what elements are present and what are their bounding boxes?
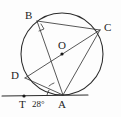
point-label-C: C <box>104 22 111 33</box>
center-dot-O <box>60 52 63 55</box>
angle-mark-at-A-inner <box>49 83 54 86</box>
point-label-D: D <box>11 70 19 81</box>
segment-BC <box>37 21 100 30</box>
angle-label-28-degrees: 28° <box>32 100 45 109</box>
segment-DA <box>25 78 63 95</box>
point-label-O: O <box>58 40 66 51</box>
circle-geometry-diagram: B C O D A T 28° <box>0 0 121 117</box>
point-label-T: T <box>19 99 26 110</box>
point-label-B: B <box>25 10 32 21</box>
segment-CA <box>63 30 100 95</box>
tangent-line-at-A <box>2 95 88 96</box>
segment-BA <box>37 21 63 95</box>
point-label-A: A <box>58 99 66 110</box>
